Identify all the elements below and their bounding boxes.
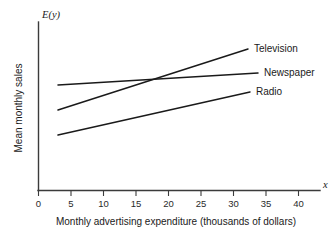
y-axis-title: Mean monthly sales	[13, 64, 24, 153]
x-tick-label-40: 40	[293, 198, 304, 209]
x-tick-label-10: 10	[98, 198, 109, 209]
x-tick-label-35: 35	[261, 198, 272, 209]
chart-canvas: 0 5 10 15 20 25 30 35 40 E(y) x Televisi…	[0, 0, 333, 233]
x-tick-label-30: 30	[228, 198, 239, 209]
x-tick-label-25: 25	[196, 198, 207, 209]
series-line-newspaper	[58, 73, 258, 85]
series-label-radio: Radio	[256, 86, 283, 97]
x-axis-title: Monthly advertising expenditure (thousan…	[56, 216, 296, 227]
x-axis-symbol: x	[322, 179, 328, 190]
x-tick-label-0: 0	[36, 198, 41, 209]
y-axis-symbol: E(y)	[41, 9, 61, 21]
x-tick-label-15: 15	[131, 198, 142, 209]
series-label-newspaper: Newspaper	[264, 67, 315, 78]
series-label-television: Television	[254, 43, 298, 54]
series-line-radio	[58, 92, 250, 135]
chart-figure: 0 5 10 15 20 25 30 35 40 E(y) x Televisi…	[0, 0, 333, 233]
x-tick-label-5: 5	[68, 198, 73, 209]
x-tick-label-20: 20	[163, 198, 174, 209]
